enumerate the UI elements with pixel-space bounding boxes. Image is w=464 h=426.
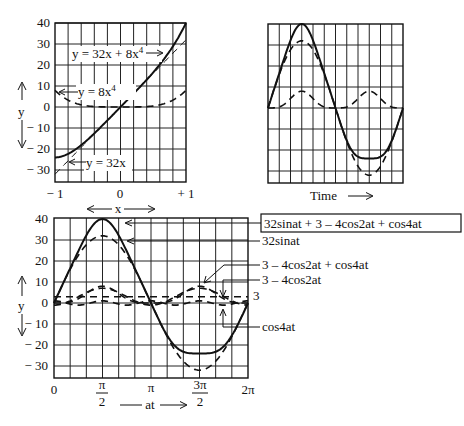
x-tick: − 1 [46,186,63,201]
y-tick: 10 [35,274,48,289]
y-tick: − 30 [26,162,50,177]
plot-top-left: 40 30 20 10 0 − 10 − 20 − 30 − 1 0 + 1 y… [18,15,195,201]
y-tick: 20 [37,57,50,72]
x-tick-pi: π [148,380,155,395]
y-tick: − 20 [24,337,48,352]
x-tick: 0 [117,186,124,201]
x-tick-3pi-over-2-num: 3π [193,377,207,392]
y-tick: − 30 [24,358,48,373]
plot-top-right: Time [268,24,403,203]
legend-cos4at: cos4at [262,319,296,334]
y-tick: − 10 [26,120,50,135]
time-axis-label: Time [310,188,337,203]
x-tick: + 1 [177,186,194,201]
annotation-quartic: y = 8x4 [78,83,116,99]
figure: 40 30 20 10 0 − 10 − 20 − 30 − 1 0 + 1 y… [0,0,464,426]
y-tick: 20 [35,253,48,268]
y-tick: 30 [37,36,50,51]
legend-32sinat: 32sinat [262,233,300,248]
plot-bottom: x 40 30 20 10 0 − 10 − 20 − 30 y 0 π 2 π… [18,201,461,412]
annotation-linear: y = 32x [86,155,126,170]
y-tick: 40 [37,15,50,30]
x-tick-pi-over-2-num: π [99,377,106,392]
arrow-icon [69,159,86,165]
x-span-label: x [115,201,122,216]
x-tick-2pi: 2π [241,382,255,397]
legend-sum: 32sinat + 3 – 4cos2at + cos4at [264,216,422,231]
y-tick: − 10 [24,316,48,331]
y-tick: − 20 [26,141,50,156]
legend-3-minus-4cos2at: 3 – 4cos2at [262,272,322,287]
y-tick: 0 [42,295,49,310]
arrow-right-icon [348,193,373,200]
at-axis-label: at [145,397,155,412]
y-axis-label: y [18,104,25,119]
y-tick: 30 [35,232,48,247]
leader-harmonic [205,265,260,282]
x-tick-3pi-over-2-den: 2 [197,394,204,409]
y-tick: 40 [35,211,48,226]
y-tick: 0 [44,99,51,114]
legend-3-minus-4cos2at-plus-cos4at: 3 – 4cos2at + cos4at [262,257,369,272]
y-tick: 10 [37,78,50,93]
x-tick-0: 0 [51,382,58,397]
arrow-right-icon [160,402,187,409]
y-axis-label: y [18,298,25,313]
x-tick-pi-over-2-den: 2 [99,394,106,409]
annotation-sum: y = 32x + 8x4 [72,45,144,61]
legend-constant-3: 3 [253,288,260,303]
